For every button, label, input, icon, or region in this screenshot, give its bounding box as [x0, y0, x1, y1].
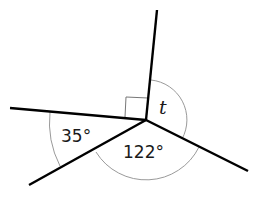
ray-up — [146, 10, 157, 120]
arc-35 — [49, 112, 60, 166]
label-35: 35° — [61, 126, 91, 146]
right-angle-marker — [125, 97, 148, 117]
angles-diagram: t 122° 35° — [0, 0, 260, 201]
label-122: 122° — [123, 142, 164, 162]
label-t: t — [159, 96, 167, 118]
